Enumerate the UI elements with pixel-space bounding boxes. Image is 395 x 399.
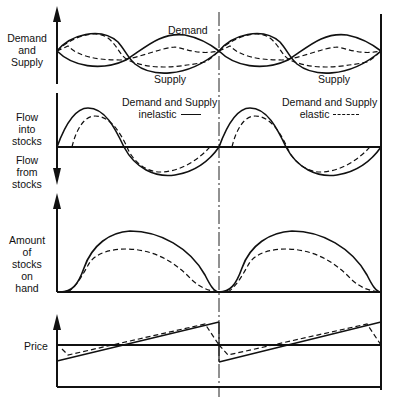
legend-inelastic-title: Demand and Supply (122, 96, 217, 108)
demand-curve-label: Demand (168, 24, 208, 36)
label-line: from (2, 166, 52, 178)
label-line: of (2, 246, 52, 258)
label-line: and (2, 44, 52, 56)
label-line: Flow (2, 154, 52, 166)
label-line: stocks (2, 135, 52, 147)
label-line: Supply (2, 56, 52, 68)
legend-elastic: Demand and Supply elastic (282, 96, 377, 120)
supply-elastic-curve-2 (219, 34, 381, 67)
stocks-inelastic-curve-2 (219, 231, 381, 292)
legend-inelastic-label: inelastic (139, 108, 177, 120)
flow-from-stocks-label: Flow from stocks (2, 154, 52, 190)
price-axis-label: Price (20, 340, 52, 352)
flow-elastic-curve-2 (232, 116, 370, 172)
label-line: Demand (2, 32, 52, 44)
legend-elastic-label: elastic (300, 108, 330, 120)
legend-elastic-title: Demand and Supply (282, 96, 377, 108)
flow-elastic-curve (72, 116, 210, 172)
panel-price (53, 314, 381, 387)
label-line: stocks (2, 178, 52, 190)
label-line: Amount (2, 234, 52, 246)
supply-inelastic-curve-2 (219, 34, 381, 73)
supply-curve-label-2: Supply (318, 73, 350, 85)
y-axis-arrow-icon (53, 193, 61, 209)
label-line: into (2, 123, 52, 135)
solid-line-swatch-icon (181, 114, 201, 115)
panel-stocks (53, 193, 381, 292)
flow-from-arrow-icon (53, 168, 61, 185)
label-line: stocks (2, 258, 52, 270)
stocks-elastic-curve-2 (228, 249, 381, 292)
dashed-line-swatch-icon (333, 114, 359, 115)
label-line: Flow (2, 111, 52, 123)
legend-inelastic: Demand and Supply inelastic (122, 96, 217, 120)
label-line: on (2, 270, 52, 282)
y-axis-arrow-icon (53, 314, 61, 330)
label-line: hand (2, 282, 52, 294)
demand-elastic-curve (57, 46, 219, 60)
stocks-on-hand-label: Amount of stocks on hand (2, 234, 52, 294)
y-axis-arrow-icon (53, 6, 61, 22)
price-elastic-line (62, 324, 381, 355)
diagram-canvas (0, 0, 395, 399)
supply-curve-label: Supply (154, 73, 186, 85)
flow-into-stocks-label: Flow into stocks (2, 111, 52, 147)
demand-supply-axis-label: Demand and Supply (2, 32, 52, 68)
demand-inelastic-curve-2 (219, 35, 381, 67)
demand-inelastic-curve (57, 35, 219, 67)
supply-elastic-curve (57, 34, 219, 67)
supply-inelastic-curve (57, 34, 219, 73)
demand-elastic-curve-2 (219, 46, 381, 60)
